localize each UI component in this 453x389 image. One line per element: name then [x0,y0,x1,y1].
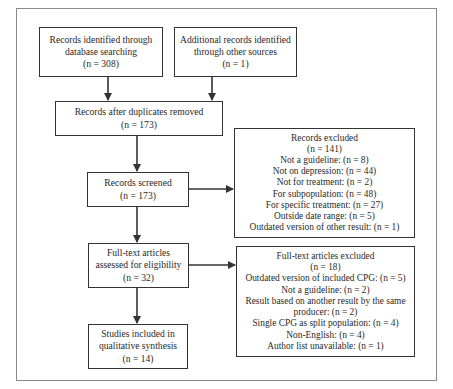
box-title: Full-text articles excluded [277,251,375,262]
exclusion-reason: For subpopulation: (n = 48) [273,189,377,200]
exclusion-reason: Result based on another result by the sa… [245,296,405,307]
box-text-line: Studies included in [101,328,175,340]
box-text-line: database searching [65,46,137,58]
box-count: (n = 14) [123,353,154,365]
box-full-text-excluded: Full-text articles excluded (n = 18) Out… [236,246,415,357]
box-count: (n = 173) [121,119,157,131]
exclusion-reason: producer: (n = 2) [294,307,358,318]
box-text-line: Additional records identified [180,34,291,46]
box-text-line: Records identified through [50,34,153,46]
exclusion-reason: For specific treatment: (n = 27) [266,200,384,211]
box-studies-included: Studies included in qualitative synthesi… [88,324,188,369]
box-count: (n = 141) [307,144,342,155]
exclusion-reason: Outdated version of included CPG: (n = 5… [245,273,405,284]
box-text-line: qualitative synthesis [99,340,177,352]
exclusion-reason: Not on depression: (n = 44) [273,166,376,177]
exclusion-reason: Non-English: (n = 4) [286,330,364,341]
exclusion-reason: Author list unavailable: (n = 1) [267,341,383,352]
box-text-line: assessed for eligibility [96,259,182,271]
box-count: (n = 18) [310,262,340,273]
exclusion-reason: Not for treatment: (n = 2) [277,177,373,188]
box-records-database: Records identified through database sear… [39,27,163,77]
box-records-screened: Records screened (n = 173) [87,172,189,207]
box-count: (n = 308) [83,58,119,70]
box-count: (n = 1) [222,58,248,70]
box-full-text-assessed: Full-text articles assessed for eligibil… [88,243,189,288]
box-title: Records excluded [291,133,358,144]
exclusion-reason: Outdated version of other result: (n = 1… [250,222,400,233]
exclusion-reason: Single CPG as split population: (n = 4) [252,318,398,329]
exclusion-reason: Not a guideline: (n = 2) [281,285,369,296]
exclusion-reason: Not a guideline: (n = 8) [280,155,368,166]
box-count: (n = 173) [120,190,156,202]
box-text-line: Records after duplicates removed [75,106,204,118]
exclusion-reason: Outside date range: (n = 5) [274,211,375,222]
box-records-excluded: Records excluded (n = 141) Not a guideli… [234,128,415,238]
box-text-line: through other sources [194,46,277,58]
box-count: (n = 32) [123,272,154,284]
box-text-line: Full-text articles [107,247,170,259]
box-after-duplicates: Records after duplicates removed (n = 17… [55,101,223,136]
box-records-other-sources: Additional records identified through ot… [174,27,297,77]
box-text-line: Records screened [104,177,171,189]
